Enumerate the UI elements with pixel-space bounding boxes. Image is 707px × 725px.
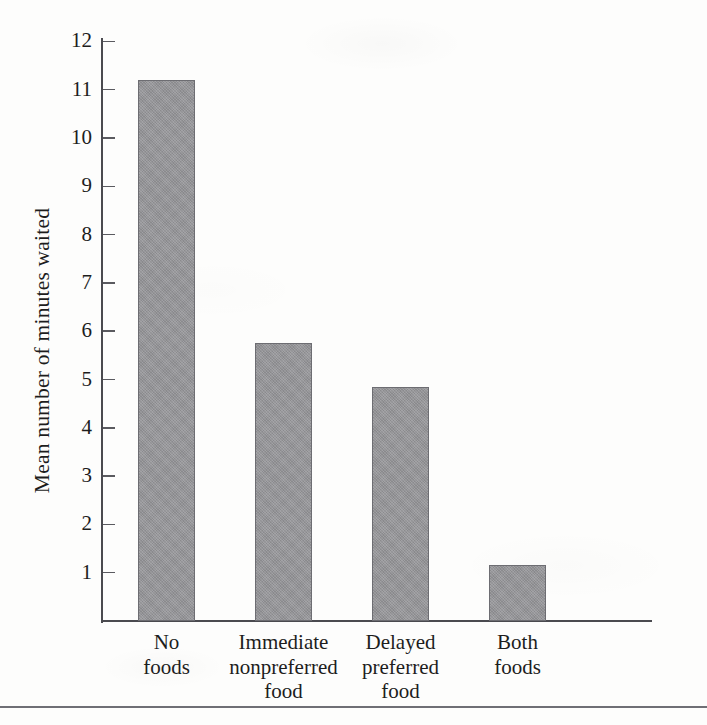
- y-axis-tick-mark: [103, 41, 115, 43]
- y-axis-tick-mark: [103, 234, 115, 236]
- x-axis-category-label: Nofoods: [108, 630, 225, 679]
- figure-container: Mean number of minutes waited 1234567891…: [0, 0, 707, 725]
- y-axis-tick-label: 8: [40, 224, 92, 245]
- y-axis-tick-label: 2: [40, 513, 92, 534]
- x-axis-category-label-line: Immediate: [225, 630, 342, 655]
- bar: [255, 343, 312, 621]
- y-axis-tick-label: 7: [40, 272, 92, 293]
- x-axis-category-label-line: Both: [459, 630, 576, 655]
- caption-divider-rule: [0, 706, 707, 708]
- y-axis-tick-mark: [103, 572, 115, 574]
- x-axis-category-label-line: Delayed: [342, 630, 459, 655]
- y-axis-tick-mark: [103, 186, 115, 188]
- bar-chart-plot: Mean number of minutes waited 1234567891…: [0, 0, 707, 725]
- y-axis-tick-mark: [103, 282, 115, 284]
- bar: [372, 387, 429, 621]
- x-axis-category-label-line: preferred: [342, 655, 459, 680]
- y-axis-tick-label: 3: [40, 465, 92, 486]
- y-axis-tick-label: 1: [40, 562, 92, 583]
- y-axis-tick-label: 12: [40, 30, 92, 51]
- y-axis-tick-label: 10: [40, 127, 92, 148]
- x-axis-category-label-line: foods: [459, 655, 576, 680]
- x-axis-category-label-line: No: [108, 630, 225, 655]
- y-axis-tick-mark: [103, 137, 115, 139]
- y-axis-tick-mark: [103, 475, 115, 477]
- y-axis-tick-mark: [103, 427, 115, 429]
- x-axis-category-label-line: foods: [108, 655, 225, 680]
- x-axis-category-label-line: food: [342, 679, 459, 704]
- y-axis-tick-mark: [103, 524, 115, 526]
- bar: [138, 80, 195, 621]
- y-axis-tick-label: 6: [40, 320, 92, 341]
- y-axis-tick-label: 4: [40, 417, 92, 438]
- x-axis-category-label: Immediatenonpreferredfood: [225, 630, 342, 704]
- x-axis-category-label: Bothfoods: [459, 630, 576, 679]
- y-axis-tick-mark: [103, 89, 115, 91]
- x-axis-category-label-line: food: [225, 679, 342, 704]
- x-axis-category-label: Delayedpreferredfood: [342, 630, 459, 704]
- y-axis-tick-mark: [103, 379, 115, 381]
- y-axis-tick-label: 9: [40, 175, 92, 196]
- clipped-caption-text: [0, 711, 707, 725]
- x-axis-category-label-line: nonpreferred: [225, 655, 342, 680]
- bar: [489, 565, 546, 621]
- y-axis-tick-label: 5: [40, 369, 92, 390]
- y-axis-tick-mark: [103, 330, 115, 332]
- y-axis-tick-label: 11: [40, 79, 92, 100]
